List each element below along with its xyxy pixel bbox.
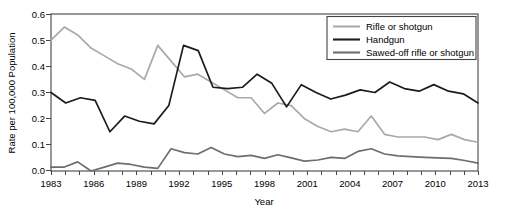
x-tick-label: 1986 (83, 178, 104, 189)
y-tick-label: 0.4 (32, 61, 45, 72)
series-line-sawed-off-rifle-or-shotgun (51, 147, 478, 171)
chart-figure: 0.6 0.5 0.4 0.3 0.2 0.1 0.0 Rate per 100… (0, 0, 505, 217)
legend-label-rifle-or-shotgun: Rifle or shotgun (366, 21, 433, 32)
x-axis-tickmarks (52, 171, 479, 175)
legend-label-handgun: Handgun (366, 34, 405, 45)
y-tick-label: 0.2 (32, 113, 45, 124)
x-tick-label: 2001 (297, 178, 318, 189)
x-tick-label: 1983 (40, 178, 61, 189)
x-tick-label: 1992 (169, 178, 190, 189)
chart-legend: Rifle or shotgun Handgun Sawed-off rifle… (327, 17, 476, 60)
y-tick-label: 0.6 (32, 9, 45, 20)
x-tick-label: 1995 (211, 178, 232, 189)
x-tick-label: 2004 (339, 178, 360, 189)
x-tick-label: 2007 (382, 178, 403, 189)
y-tick-label: 0.3 (32, 87, 45, 98)
x-tick-label: 1989 (126, 178, 147, 189)
x-tick-label: 1998 (254, 178, 275, 189)
x-tick-label: 2010 (425, 178, 446, 189)
line-chart: 0.6 0.5 0.4 0.3 0.2 0.1 0.0 Rate per 100… (0, 0, 505, 217)
y-tick-label: 0.0 (32, 165, 45, 176)
legend-label-sawed-off-rifle-or-shotgun: Sawed-off rifle or shotgun (366, 47, 474, 58)
x-axis-title: Year (254, 196, 273, 207)
y-tick-label: 0.1 (32, 139, 45, 150)
x-axis-tick-labels: 1983198619891992199519982001200420072010… (40, 178, 488, 189)
y-axis-tick-labels: 0.6 0.5 0.4 0.3 0.2 0.1 0.0 (32, 9, 45, 176)
y-axis-title: Rate per 100,000 Population (6, 33, 17, 154)
x-tick-label: 2013 (467, 178, 488, 189)
y-tick-label: 0.5 (32, 35, 45, 46)
